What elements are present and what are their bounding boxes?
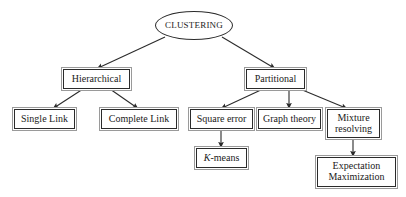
- edge-root-hierarchical: [97, 37, 165, 69]
- edge-root-partitional: [222, 37, 275, 69]
- node-mixture-resolving-label: Mixture resolving: [333, 113, 374, 135]
- node-square-error-label: Square error: [195, 114, 249, 125]
- node-clustering[interactable]: CLUSTERING: [155, 11, 233, 40]
- node-expectation-maximization-label: Expectation Maximization: [326, 161, 386, 183]
- node-expectation-maximization[interactable]: Expectation Maximization: [317, 157, 396, 187]
- node-clustering-label: CLUSTERING: [163, 21, 225, 31]
- node-graph-theory[interactable]: Graph theory: [258, 109, 321, 129]
- node-single-link-label: Single Link: [19, 114, 70, 125]
- edge-hierarchical-single-link: [53, 89, 83, 109]
- node-complete-link-label: Complete Link: [107, 114, 171, 125]
- node-single-link[interactable]: Single Link: [14, 109, 75, 129]
- edge-hierarchical-complete-link: [110, 89, 138, 109]
- clustering-taxonomy-diagram: CLUSTERING Hierarchical Partitional Sing…: [0, 0, 406, 197]
- node-hierarchical[interactable]: Hierarchical: [63, 69, 130, 89]
- node-complete-link[interactable]: Complete Link: [101, 109, 177, 129]
- node-k-means[interactable]: K-means: [196, 148, 247, 168]
- node-k-means-label: K-means: [202, 153, 242, 164]
- node-hierarchical-label: Hierarchical: [70, 74, 123, 85]
- node-mixture-resolving[interactable]: Mixture resolving: [327, 109, 380, 138]
- node-k-means-label-suffix: -means: [210, 152, 239, 163]
- node-partitional[interactable]: Partitional: [246, 69, 305, 89]
- node-graph-theory-label: Graph theory: [261, 114, 318, 125]
- edge-partitional-mixture-resolving: [300, 89, 347, 109]
- node-partitional-label: Partitional: [253, 74, 299, 85]
- edge-partitional-square-error: [221, 89, 263, 109]
- node-square-error[interactable]: Square error: [190, 109, 253, 129]
